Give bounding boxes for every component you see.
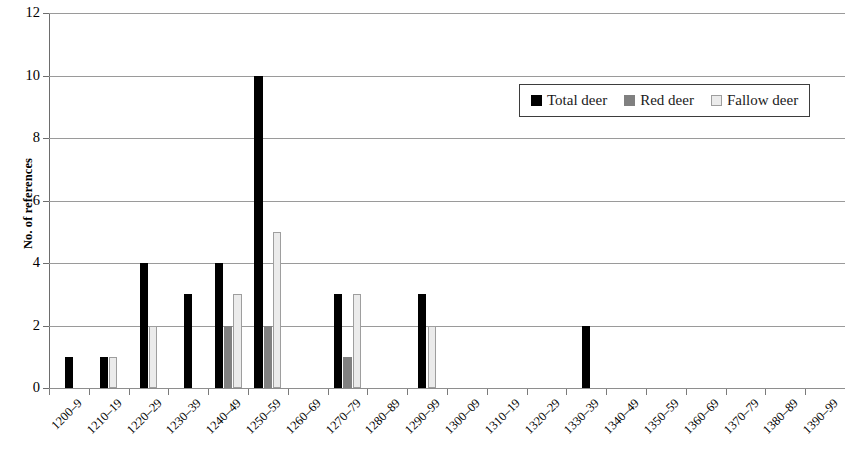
bar-total-1290-99 xyxy=(418,294,426,388)
bar-red-1240-49 xyxy=(224,326,232,389)
bar-fallow-1210-19 xyxy=(109,357,117,388)
deer-references-bar-chart: No. of references 024681012 1200–91210–1… xyxy=(0,0,845,454)
x-tick-mark-11 xyxy=(487,389,488,395)
bar-red-1250-59 xyxy=(264,326,272,389)
x-tick-label-1300-09: 1300–09 xyxy=(442,396,484,438)
y-tick-label-4: 4 xyxy=(0,254,40,271)
x-tick-label-1250-59: 1250–59 xyxy=(243,396,285,438)
x-tick-mark-2 xyxy=(129,389,130,395)
y-tick-label-8: 8 xyxy=(0,129,40,146)
bar-total-1270-79 xyxy=(334,294,342,388)
gridline-10 xyxy=(49,76,845,77)
y-tick-label-12: 12 xyxy=(0,4,40,21)
x-tick-mark-13 xyxy=(566,389,567,395)
legend-entry-red: Red deer xyxy=(624,92,694,109)
bar-total-1220-29 xyxy=(140,263,148,388)
legend-entry-fallow: Fallow deer xyxy=(711,92,798,109)
x-tick-mark-7 xyxy=(328,389,329,395)
x-tick-label-1270-79: 1270–79 xyxy=(323,396,365,438)
x-tick-label-1390-99: 1390–99 xyxy=(800,396,842,438)
bar-total-1210-19 xyxy=(100,357,108,388)
gridline-4 xyxy=(49,263,845,264)
x-tick-label-1290-99: 1290–99 xyxy=(402,396,444,438)
x-tick-mark-18 xyxy=(765,389,766,395)
bar-fallow-1220-29 xyxy=(149,326,157,389)
x-tick-label-1230-39: 1230–39 xyxy=(163,396,205,438)
bar-fallow-1270-79 xyxy=(353,294,361,388)
legend-label-fallow: Fallow deer xyxy=(727,92,798,109)
bar-fallow-1240-49 xyxy=(233,294,241,388)
x-tick-label-1320-29: 1320–29 xyxy=(522,396,564,438)
gridline-12 xyxy=(49,13,845,14)
x-tick-mark-6 xyxy=(288,389,289,395)
bar-red-1270-79 xyxy=(343,357,351,388)
x-tick-label-1360-69: 1360–69 xyxy=(681,396,723,438)
legend-label-total: Total deer xyxy=(547,92,607,109)
x-tick-label-1260-69: 1260–69 xyxy=(283,396,325,438)
x-tick-mark-4 xyxy=(208,389,209,395)
plot-area xyxy=(49,13,845,388)
legend-swatch-fallow-icon xyxy=(711,95,722,106)
bar-total-1250-59 xyxy=(254,76,262,389)
bar-fallow-1250-59 xyxy=(273,232,281,388)
y-tick-label-2: 2 xyxy=(0,317,40,334)
x-tick-mark-9 xyxy=(407,389,408,395)
x-tick-label-1330-39: 1330–39 xyxy=(561,396,603,438)
gridline-2 xyxy=(49,326,845,327)
x-tick-label-1280-89: 1280–89 xyxy=(362,396,404,438)
x-tick-mark-15 xyxy=(646,389,647,395)
y-tick-label-0: 0 xyxy=(0,379,40,396)
gridline-8 xyxy=(49,138,845,139)
x-tick-mark-10 xyxy=(447,389,448,395)
x-tick-mark-19 xyxy=(805,389,806,395)
bar-total-1330-39 xyxy=(582,326,590,389)
x-tick-label-1240-49: 1240–49 xyxy=(203,396,245,438)
x-tick-label-1340-49: 1340–49 xyxy=(601,396,643,438)
bar-total-1240-49 xyxy=(215,263,223,388)
x-tick-mark-12 xyxy=(527,389,528,395)
y-tick-label-10: 10 xyxy=(0,67,40,84)
legend-swatch-red-icon xyxy=(624,95,635,106)
x-tick-label-1380-89: 1380–89 xyxy=(760,396,802,438)
x-tick-mark-1 xyxy=(89,389,90,395)
x-tick-mark-17 xyxy=(726,389,727,395)
x-tick-label-1200-9: 1200–9 xyxy=(48,396,85,433)
x-tick-label-1210-19: 1210–19 xyxy=(84,396,126,438)
x-tick-mark-8 xyxy=(367,389,368,395)
bar-fallow-1290-99 xyxy=(428,326,436,389)
x-tick-label-1220-29: 1220–29 xyxy=(124,396,166,438)
x-tick-mark-16 xyxy=(686,389,687,395)
x-tick-mark-14 xyxy=(606,389,607,395)
x-tick-mark-3 xyxy=(168,389,169,395)
bar-total-1230-39 xyxy=(184,294,192,388)
x-tick-label-1350-59: 1350–59 xyxy=(641,396,683,438)
x-tick-label-1370-79: 1370–79 xyxy=(721,396,763,438)
legend-swatch-total-icon xyxy=(531,95,542,106)
legend-entry-total: Total deer xyxy=(531,92,607,109)
x-tick-label-1310-19: 1310–19 xyxy=(482,396,524,438)
x-tick-mark-5 xyxy=(248,389,249,395)
x-tick-mark-0 xyxy=(49,389,50,395)
legend-label-red: Red deer xyxy=(640,92,694,109)
gridline-6 xyxy=(49,201,845,202)
bar-total-1200-9 xyxy=(65,357,73,388)
y-tick-label-6: 6 xyxy=(0,192,40,209)
chart-legend: Total deerRed deerFallow deer xyxy=(519,84,810,117)
